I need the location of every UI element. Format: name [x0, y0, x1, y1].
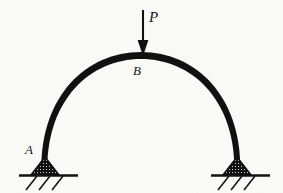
diagram-canvas	[0, 0, 283, 193]
left-support-triangle	[31, 157, 59, 175]
left-pin-support	[19, 157, 78, 190]
load-arrow-P	[138, 10, 149, 56]
arch-rib	[42, 52, 241, 168]
right-support-triangle	[223, 157, 251, 175]
load-label-P: P	[149, 10, 158, 25]
left-ground-hatching	[26, 176, 63, 190]
left-support-label-A: A	[25, 143, 33, 156]
arch-free-body-diagram: P B A	[0, 0, 283, 193]
crown-label-B: B	[133, 64, 141, 77]
right-pin-support	[211, 157, 270, 190]
right-ground-hatching	[218, 176, 255, 190]
